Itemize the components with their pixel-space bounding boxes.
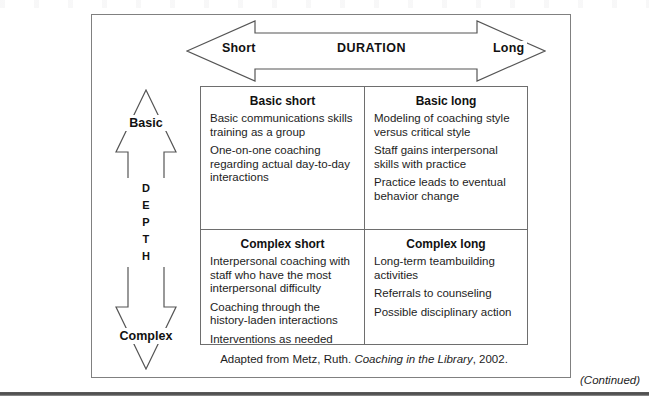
duration-high-label: Long — [490, 41, 527, 55]
continued-label: (Continued) — [580, 374, 640, 386]
depth-letter: T — [127, 231, 165, 248]
quadrant-item: Long-term teambuilding activities — [374, 255, 518, 282]
quadrant-item: One-on-one coaching regarding actual day… — [210, 144, 355, 185]
coaching-matrix: Basic short Basic communications skills … — [200, 86, 528, 345]
duration-low-label: Short — [219, 41, 259, 55]
scan-artifact-strip — [0, 0, 649, 8]
source-suffix: , 2002. — [473, 353, 508, 365]
quadrant-basic-short: Basic short Basic communications skills … — [201, 87, 364, 229]
quadrant-item: Modeling of coaching style versus critic… — [374, 112, 518, 139]
quadrant-item: Interpersonal coaching with staff who ha… — [210, 255, 355, 296]
quadrant-title: Complex long — [374, 237, 518, 251]
quadrant-complex-long: Complex long Long-term teambuilding acti… — [364, 229, 527, 344]
page-bottom-rule — [0, 392, 649, 396]
depth-letter: P — [127, 214, 165, 231]
scanned-page: Short DURATION Long Basic Complex D E P … — [0, 0, 649, 403]
source-prefix: Adapted from Metz, Ruth. — [220, 353, 354, 365]
quadrant-item: Referrals to counseling — [374, 287, 518, 301]
quadrant-basic-long: Basic long Modeling of coaching style ve… — [364, 87, 527, 229]
depth-letter: D — [127, 180, 165, 197]
source-attribution: Adapted from Metz, Ruth. Coaching in the… — [200, 352, 528, 366]
depth-letter: E — [127, 197, 165, 214]
quadrant-item: Interventions as needed — [210, 333, 355, 344]
quadrant-item: Basic communications skills training as … — [210, 112, 355, 139]
quadrant-item: Staff gains interpersonal skills with pr… — [374, 144, 518, 171]
quadrant-title: Complex short — [210, 237, 355, 251]
quadrant-title: Basic short — [210, 94, 355, 108]
depth-top-label: Basic — [104, 115, 188, 131]
quadrant-title: Basic long — [374, 94, 518, 108]
depth-letter: H — [127, 248, 165, 265]
depth-axis-title: D E P T H — [127, 178, 165, 267]
depth-bottom-label: Complex — [104, 328, 188, 344]
source-book-title: Coaching in the Library — [354, 353, 472, 365]
quadrant-item: Coaching through the history-laden inter… — [210, 301, 355, 328]
quadrant-item: Practice leads to eventual behavior chan… — [374, 176, 518, 203]
quadrant-item: Possible disciplinary action — [374, 306, 518, 320]
duration-axis-title: DURATION — [334, 41, 409, 55]
quadrant-complex-short: Complex short Interpersonal coaching wit… — [201, 229, 364, 344]
